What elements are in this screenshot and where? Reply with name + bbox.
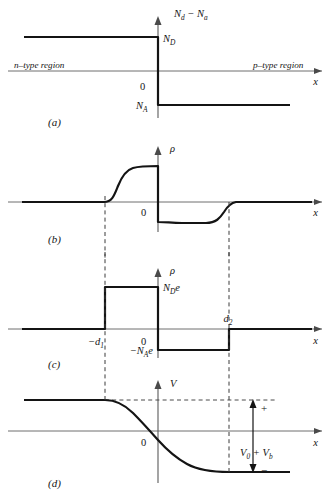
panel-b-origin-label: 0 <box>141 207 146 218</box>
panel-c-level-nde-label: NDe <box>162 282 180 296</box>
panel-a-level-na-label: NA <box>135 100 148 114</box>
panel-c-y-arrowhead <box>155 268 162 277</box>
panel-a: Nd − Na ND NA 0 x n–type region p–type r… <box>8 8 322 129</box>
panel-c-x-arrowhead <box>314 326 322 332</box>
panel-d-letter: (d) <box>48 477 61 490</box>
panel-c-y-axis-label: ρ <box>169 265 175 276</box>
panel-c-letter: (c) <box>48 358 61 371</box>
panel-a-y-axis-label: Nd − Na <box>173 8 208 22</box>
panel-c: ρ NDe −NAe 0 −d1 d2 x (c) <box>8 265 322 371</box>
panel-a-level-nd-label: ND <box>162 33 176 47</box>
panel-c-marker-minus-d1-label: −d1 <box>88 336 104 350</box>
panel-a-letter: (a) <box>48 116 61 129</box>
panel-d-potential-label: V0 + Vb <box>240 447 273 461</box>
panel-b: ρ 0 x (b) <box>8 143 322 246</box>
panel-b-y-arrowhead <box>155 146 162 155</box>
panel-c-box-charge-curve <box>22 287 312 350</box>
panel-d-plus-sign: + <box>261 402 267 414</box>
panel-b-x-arrowhead <box>314 199 322 205</box>
panel-a-origin-label: 0 <box>140 81 145 92</box>
panel-d-potential-curve <box>24 400 290 472</box>
panel-c-level-minus-nae-label: −NAe <box>130 345 154 359</box>
panel-a-y-arrowhead <box>155 16 162 25</box>
panel-b-charge-density-curve <box>22 166 312 223</box>
panel-a-x-axis-label: x <box>312 76 318 87</box>
panel-b-letter: (b) <box>48 233 61 246</box>
pn-junction-figure: Nd − Na ND NA 0 x n–type region p–type r… <box>0 0 336 504</box>
panel-c-x-axis-label: x <box>312 335 318 346</box>
panel-d-x-axis-label: x <box>312 437 318 448</box>
panel-a-x-arrowhead <box>314 68 322 74</box>
panel-c-origin-label: 0 <box>141 336 146 347</box>
panel-a-left-region-label: n–type region <box>14 60 65 70</box>
panel-c-marker-d2-label: d2 <box>224 313 233 327</box>
panel-d-y-arrowhead <box>155 380 162 389</box>
figure-svg: Nd − Na ND NA 0 x n–type region p–type r… <box>0 0 336 504</box>
panel-a-right-region-label: p–type region <box>252 60 304 70</box>
panel-d: + − V0 + Vb V 0 x (d) <box>8 378 322 490</box>
panel-d-y-axis-label: V <box>170 378 178 389</box>
panel-d-minus-sign: − <box>261 464 267 476</box>
panel-d-origin-label: 0 <box>141 437 146 448</box>
panel-b-y-axis-label: ρ <box>169 143 175 154</box>
panel-d-x-arrowhead <box>314 428 322 434</box>
panel-b-x-axis-label: x <box>312 207 318 218</box>
